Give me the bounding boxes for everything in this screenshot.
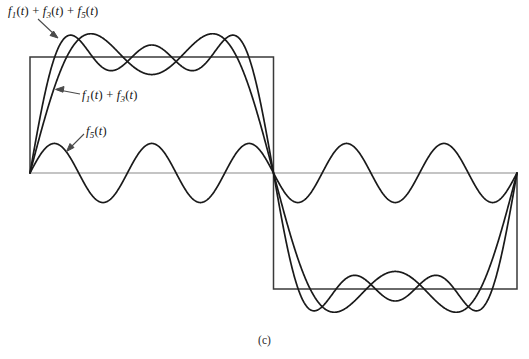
label-f5-text: f5(t) bbox=[86, 124, 107, 138]
label-sum135-text: f1(t) + f3(t) + f5(t) bbox=[8, 4, 98, 18]
fourier-series-figure: f1(t) + f3(t) + f5(t) f1(t) + f3(t) f5(t… bbox=[0, 0, 529, 359]
leader-sum135 bbox=[38, 19, 58, 38]
label-sum13-text: f1(t) + f3(t) bbox=[82, 88, 138, 102]
label-f5: f5(t) bbox=[86, 124, 107, 140]
label-sum-f1-f3-f5: f1(t) + f3(t) + f5(t) bbox=[8, 4, 98, 20]
waveform-plot bbox=[0, 0, 529, 359]
leader-sum13 bbox=[56, 87, 81, 95]
leader-f5 bbox=[67, 134, 85, 152]
figure-caption: (c) bbox=[0, 334, 529, 346]
label-sum-f1-f3: f1(t) + f3(t) bbox=[82, 88, 138, 104]
